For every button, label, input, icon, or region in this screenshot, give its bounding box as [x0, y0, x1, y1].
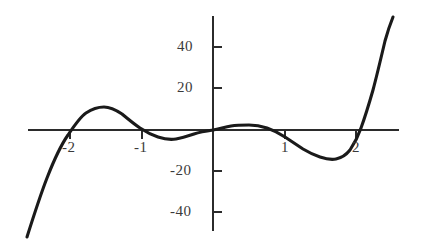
polynomial-curve: [27, 17, 393, 237]
chart-canvas: [0, 0, 428, 246]
x-axis-label-2: 2: [352, 139, 360, 156]
x-axis-label-neg1: -1: [134, 139, 148, 156]
chart-plot-area: 40 20 -20 -40 -2 -1 1 2: [0, 0, 428, 246]
y-axis-label-40: 40: [177, 38, 193, 55]
x-axis-label-neg2: -2: [62, 139, 76, 156]
y-axis-label-20: 20: [177, 79, 193, 96]
y-axis-label-neg20: -20: [170, 162, 192, 179]
y-axis-label-neg40: -40: [170, 203, 192, 220]
x-axis-label-1: 1: [281, 139, 289, 156]
